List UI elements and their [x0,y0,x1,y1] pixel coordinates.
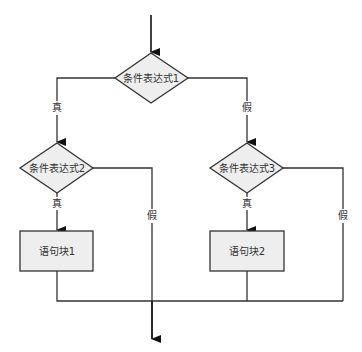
cond2-false-label: 假 [147,209,157,221]
cond1-false-label: 假 [242,101,252,113]
block2-label: 语句块2 [229,245,265,257]
block1-label: 语句块1 [39,245,75,257]
cond2-true-label: 真 [52,197,62,209]
edge-cond3-false [283,168,343,301]
edge-cond1-true [57,78,115,142]
cond3-false-label: 假 [338,209,348,221]
cond3-label: 条件表达式3 [219,162,275,174]
cond3-true-label: 真 [242,197,252,209]
cond1-label: 条件表达式1 [123,72,179,84]
cond1-true-label: 真 [52,101,62,113]
merge-line [57,271,343,301]
edge-cond2-false [93,168,152,301]
edge-cond1-false [188,78,247,142]
flowchart-canvas: 条件表达式1 条件表达式2 条件表达式3 语句块1 语句块2 真 假 真 假 真… [0,0,362,352]
cond2-label: 条件表达式2 [29,162,85,174]
